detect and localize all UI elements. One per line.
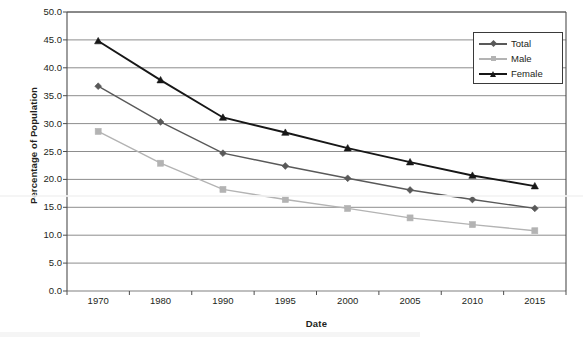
series-male <box>95 128 538 233</box>
legend-label: Total <box>508 39 531 49</box>
series-line <box>98 131 535 230</box>
line-chart: Percentage of Population 0.05.010.015.02… <box>0 0 583 339</box>
legend-item-female[interactable]: Female <box>474 66 562 81</box>
data-point-marker <box>158 160 164 166</box>
legend-label: Male <box>508 54 532 64</box>
series-total <box>95 83 538 212</box>
data-point-marker <box>95 83 102 90</box>
data-point-marker <box>345 205 351 211</box>
data-point-marker <box>157 119 164 126</box>
legend-diamond-marker-icon <box>478 37 508 51</box>
x-axis-title: Date <box>67 318 566 329</box>
data-point-marker <box>95 128 101 134</box>
legend-item-male[interactable]: Male <box>474 51 562 66</box>
x-tick-label: 1990 <box>193 296 253 306</box>
x-tick-label: 1995 <box>255 296 315 306</box>
x-tick-label: 1970 <box>68 296 128 306</box>
data-point-marker <box>531 205 538 212</box>
data-point-marker <box>220 186 226 192</box>
data-point-marker <box>532 228 538 234</box>
x-tick-label: 2000 <box>318 296 378 306</box>
legend-item-total[interactable]: Total <box>474 36 562 51</box>
data-point-marker <box>95 37 102 43</box>
data-point-marker <box>282 196 288 202</box>
data-point-marker <box>469 222 475 228</box>
x-tick-label: 2015 <box>505 296 565 306</box>
data-point-marker <box>469 196 476 203</box>
data-point-marker <box>282 163 289 170</box>
data-point-marker <box>407 187 414 194</box>
series-line <box>98 86 535 208</box>
x-tick-label: 2010 <box>442 296 502 306</box>
legend-label: Female <box>508 69 543 79</box>
chart-legend: TotalMaleFemale <box>473 32 563 84</box>
data-point-marker <box>219 114 226 120</box>
data-point-marker <box>407 215 413 221</box>
data-point-marker <box>344 175 351 182</box>
legend-triangle-marker-icon <box>478 67 508 81</box>
legend-square-marker-icon <box>478 52 508 66</box>
data-point-marker <box>220 150 227 157</box>
x-tick-label: 1980 <box>131 296 191 306</box>
x-tick-label: 2005 <box>380 296 440 306</box>
